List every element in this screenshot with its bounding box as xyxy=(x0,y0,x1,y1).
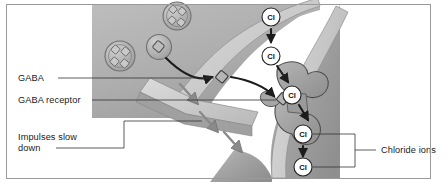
label-gaba: GABA xyxy=(18,73,45,83)
vesicle-docked xyxy=(147,35,172,60)
ion-cl-4-label: Cl xyxy=(299,130,307,139)
vesicle-2 xyxy=(105,41,135,71)
ion-cl-5: Cl xyxy=(294,158,312,176)
label-gaba-receptor: GABA receptor xyxy=(18,95,81,105)
ion-cl-5-label: Cl xyxy=(299,163,307,172)
ion-cl-4: Cl xyxy=(294,125,312,143)
label-chloride-ions: Chloride ions xyxy=(381,145,436,155)
ion-cl-3: Cl xyxy=(283,86,301,104)
gaba-synapse-figure: Cl Cl Cl Cl Cl xyxy=(0,0,448,182)
diagram-canvas: Cl Cl Cl Cl Cl xyxy=(0,0,448,182)
ion-cl-1: Cl xyxy=(262,8,280,26)
label-impulses-line2: down xyxy=(18,143,40,153)
ion-cl-2-label: Cl xyxy=(267,52,275,61)
ion-cl-1-label: Cl xyxy=(267,13,275,22)
ion-cl-2: Cl xyxy=(262,47,280,65)
ion-cl-3-label: Cl xyxy=(288,91,296,100)
vesicle-1 xyxy=(163,2,191,30)
label-impulses-line1: Impulses slow xyxy=(18,132,77,142)
